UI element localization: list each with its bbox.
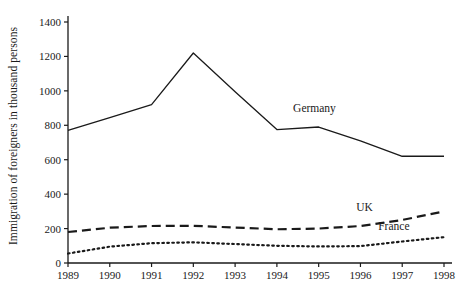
y-tick-label: 1000 [39,85,62,97]
y-tick-label: 400 [45,188,62,200]
y-tick-label: 1400 [39,16,62,28]
x-tick-label: 1995 [308,269,331,281]
x-tick-label: 1993 [224,269,247,281]
y-tick-label: 600 [45,154,62,166]
series-line-france [68,237,444,253]
y-tick-label: 0 [56,257,62,269]
x-tick-label: 1990 [99,269,122,281]
series-label-group: GermanyUKFrance [293,102,409,233]
y-tick-label: 200 [45,223,62,235]
x-axis-ticks: 1989199019911992199319941995199619971998 [57,263,456,281]
y-tick-label: 800 [45,119,62,131]
x-tick-label: 1996 [349,269,372,281]
x-tick-label: 1992 [182,269,204,281]
series-label-germany: Germany [293,102,336,115]
series-label-uk: UK [356,201,373,213]
x-tick-label: 1989 [57,269,80,281]
series-line-germany [68,53,444,156]
y-axis-ticks: 0200400600800100012001400 [39,16,68,269]
chart-canvas: 0200400600800100012001400 19891990199119… [0,0,460,295]
x-tick-label: 1991 [141,269,163,281]
series-label-france: France [378,220,409,232]
y-tick-label: 1200 [39,50,62,62]
x-tick-label: 1998 [433,269,456,281]
x-tick-label: 1994 [266,269,289,281]
x-tick-label: 1997 [391,269,414,281]
line-chart: Immigration of foreigners in thousand pe… [0,0,460,295]
